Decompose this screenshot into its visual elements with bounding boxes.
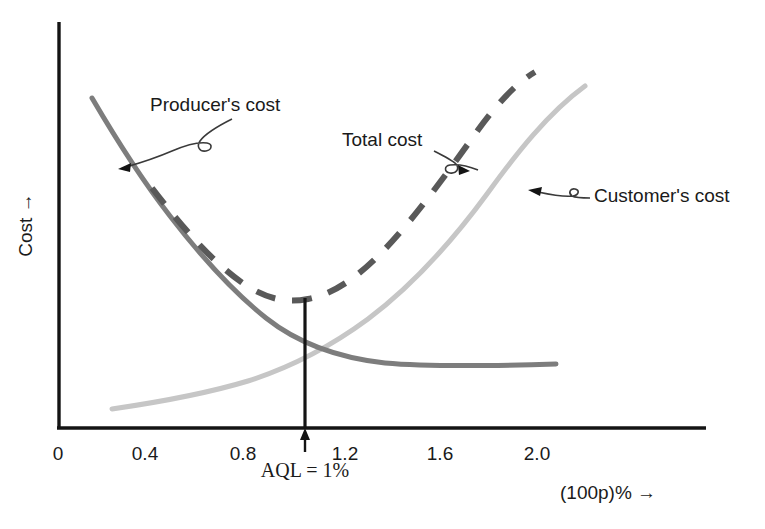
y-axis-title: Cost → — [15, 193, 36, 256]
x-tick-1: 0.4 — [132, 443, 159, 464]
chart-background — [0, 0, 765, 529]
aql-label: AQL = 1% — [261, 459, 349, 481]
annotation-customers-cost-label: Customer's cost — [594, 185, 730, 206]
annotation-total-cost-label: Total cost — [342, 129, 423, 150]
chart-figure: 0 0.4 0.8 1.2 1.6 2.0 AQL = 1% (100p)% →… — [0, 0, 765, 529]
x-axis-title: (100p)% → — [560, 482, 656, 503]
x-tick-4: 1.6 — [427, 443, 453, 464]
x-tick-5: 2.0 — [524, 443, 550, 464]
x-tick-0: 0 — [53, 443, 64, 464]
annotation-producers-cost-label: Producer's cost — [150, 94, 281, 115]
cost-vs-defect-rate-chart: 0 0.4 0.8 1.2 1.6 2.0 AQL = 1% (100p)% →… — [0, 0, 765, 529]
x-tick-2: 0.8 — [230, 443, 256, 464]
